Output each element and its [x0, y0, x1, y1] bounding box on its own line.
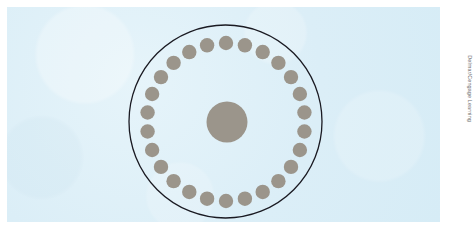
ring-dot: [284, 160, 298, 174]
ring-dot: [284, 70, 298, 84]
ring-dot: [145, 143, 159, 157]
ring-dot: [166, 174, 180, 188]
ring-dot: [154, 160, 168, 174]
ring-dot: [271, 56, 285, 70]
ring-dot: [200, 38, 214, 52]
ring-dot: [200, 192, 214, 206]
ring-dot: [256, 185, 270, 199]
ring-dot: [140, 105, 154, 119]
ring-dot: [166, 56, 180, 70]
central-core-circle: [207, 102, 248, 143]
ring-dot: [297, 105, 311, 119]
ring-dot: [219, 36, 233, 50]
ring-dot: [182, 185, 196, 199]
ring-dot: [297, 124, 311, 138]
ring-dot: [293, 87, 307, 101]
ring-dot: [140, 124, 154, 138]
ring-dot: [271, 174, 285, 188]
ring-dot: [219, 194, 233, 208]
ring-dot: [293, 143, 307, 157]
ring-dot: [182, 45, 196, 59]
ring-dot: [145, 87, 159, 101]
ring-dot: [238, 38, 252, 52]
copyright-credit: Delmar/Cengage Learning: [467, 55, 472, 122]
ring-dot: [154, 70, 168, 84]
ring-dot: [238, 192, 252, 206]
ring-dot: [256, 45, 270, 59]
